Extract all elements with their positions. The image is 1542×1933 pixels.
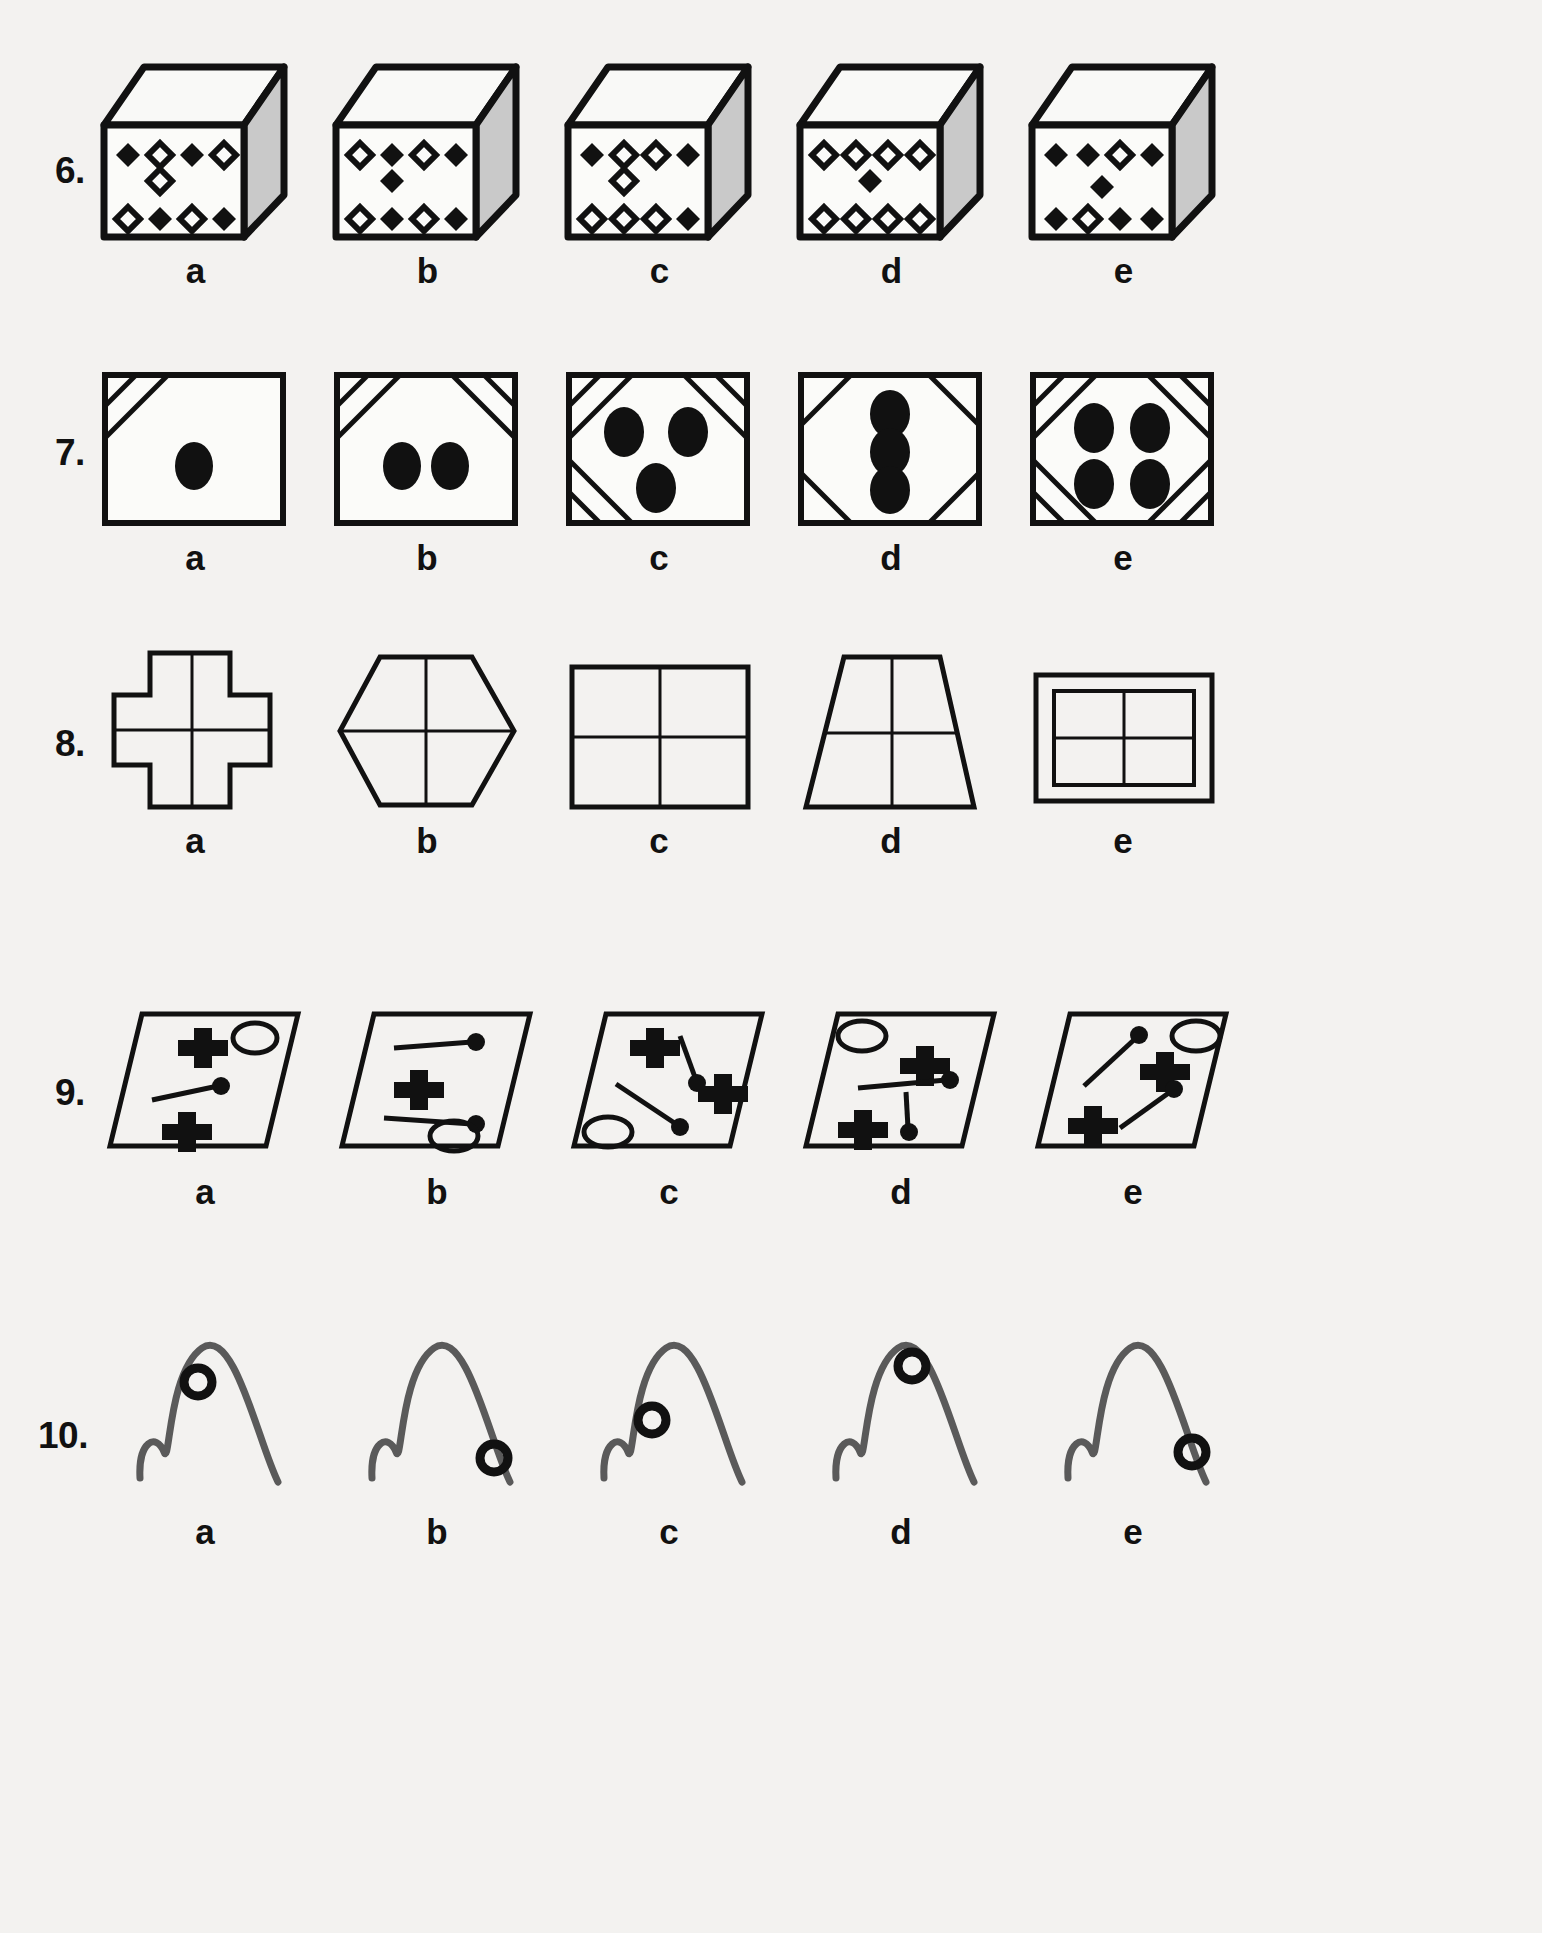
dot <box>383 442 421 490</box>
shape-figure-8d <box>796 645 986 830</box>
option-6d[interactable]: d <box>794 55 989 255</box>
option-label-10b: b <box>342 1512 532 1552</box>
option-6e[interactable]: e <box>1026 55 1221 255</box>
option-9c[interactable]: c <box>564 1000 774 1165</box>
option-10e[interactable]: e <box>1038 1330 1228 1510</box>
option-label-8e: e <box>1028 821 1218 861</box>
option-8d[interactable]: d <box>796 645 986 830</box>
option-10c[interactable]: c <box>574 1330 764 1510</box>
dot <box>1074 459 1114 509</box>
cross-icon <box>1140 1052 1190 1092</box>
option-7c[interactable]: c <box>564 370 754 540</box>
option-label-9b: b <box>332 1172 542 1212</box>
option-label-6d: d <box>794 251 989 291</box>
pin-line <box>616 1084 689 1136</box>
curve-figure-10b <box>342 1330 532 1510</box>
curve-figure-10d <box>806 1330 996 1510</box>
square-figure-7a <box>100 370 290 540</box>
shape-figure-8a <box>100 645 290 830</box>
option-9d[interactable]: d <box>796 1000 1006 1165</box>
option-8b[interactable]: b <box>332 645 522 830</box>
parallelogram-figure-9b <box>332 1000 542 1165</box>
option-label-8a: a <box>100 821 290 861</box>
option-label-10c: c <box>574 1512 764 1552</box>
curve-figure-10c <box>574 1330 764 1510</box>
option-label-8c: c <box>564 821 754 861</box>
option-label-9e: e <box>1028 1172 1238 1212</box>
option-6c[interactable]: c <box>562 55 757 255</box>
pin-line <box>900 1092 918 1141</box>
pin-line <box>394 1033 485 1051</box>
question-number-9: 9. <box>55 1072 85 1114</box>
oval-icon <box>1172 1021 1220 1051</box>
question-number-7: 7. <box>55 432 85 474</box>
shape-figure-8e <box>1028 645 1218 830</box>
worksheet-page: 6. a <box>0 0 1542 1933</box>
ring-icon <box>638 1406 666 1434</box>
dot <box>604 407 644 457</box>
option-label-8b: b <box>332 821 522 861</box>
dot <box>1074 403 1114 453</box>
pin-line <box>152 1077 230 1100</box>
square-figure-7c <box>564 370 754 540</box>
option-6a[interactable]: a <box>98 55 293 255</box>
parallelogram-figure-9e <box>1028 1000 1238 1165</box>
option-label-6a: a <box>98 251 293 291</box>
cross-icon <box>630 1028 680 1068</box>
option-10d[interactable]: d <box>806 1330 996 1510</box>
option-label-6e: e <box>1026 251 1221 291</box>
option-9a[interactable]: a <box>100 1000 310 1165</box>
question-number-6: 6. <box>55 150 85 192</box>
pin-line <box>1084 1026 1148 1086</box>
cube-figure-6d <box>794 55 989 255</box>
option-label-10e: e <box>1038 1512 1228 1552</box>
option-8c[interactable]: c <box>564 645 754 830</box>
dot <box>1130 403 1170 453</box>
cube-figure-6b <box>330 55 525 255</box>
parallelogram-figure-9a <box>100 1000 310 1165</box>
oval-icon <box>584 1117 632 1147</box>
option-label-9d: d <box>796 1172 1006 1212</box>
cube-figure-6a <box>98 55 293 255</box>
dot <box>175 442 213 490</box>
parallelogram-figure-9d <box>796 1000 1006 1165</box>
option-7a[interactable]: a <box>100 370 290 540</box>
option-7e[interactable]: e <box>1028 370 1218 540</box>
curve-figure-10e <box>1038 1330 1228 1510</box>
option-label-7c: c <box>564 538 754 578</box>
parallelogram-figure-9c <box>564 1000 774 1165</box>
curve-figure-10a <box>110 1330 300 1510</box>
option-7b[interactable]: b <box>332 370 522 540</box>
ring-icon <box>480 1444 508 1472</box>
option-9e[interactable]: e <box>1028 1000 1238 1165</box>
option-10a[interactable]: a <box>110 1330 300 1510</box>
question-number-8: 8. <box>55 723 85 765</box>
cross-icon <box>394 1070 444 1110</box>
square-figure-7d <box>796 370 986 540</box>
shape-figure-8b <box>332 645 522 830</box>
option-8a[interactable]: a <box>100 645 290 830</box>
option-label-6c: c <box>562 251 757 291</box>
oval-icon <box>838 1021 886 1051</box>
option-label-7d: d <box>796 538 986 578</box>
dot <box>1130 459 1170 509</box>
dot <box>870 466 910 514</box>
option-label-7e: e <box>1028 538 1218 578</box>
option-label-10d: d <box>806 1512 996 1552</box>
option-label-7a: a <box>100 538 290 578</box>
option-10b[interactable]: b <box>342 1330 532 1510</box>
pin-line <box>1120 1080 1183 1128</box>
pin-line <box>680 1036 706 1092</box>
option-8e[interactable]: e <box>1028 645 1218 830</box>
option-7d[interactable]: d <box>796 370 986 540</box>
option-6b[interactable]: b <box>330 55 525 255</box>
option-label-8d: d <box>796 821 986 861</box>
option-9b[interactable]: b <box>332 1000 542 1165</box>
square-figure-7e <box>1028 370 1218 540</box>
cube-figure-6e <box>1026 55 1221 255</box>
cross-icon <box>1068 1106 1118 1146</box>
dot <box>431 442 469 490</box>
ring-icon <box>184 1368 212 1396</box>
oval-icon <box>233 1023 277 1053</box>
question-number-10: 10. <box>38 1415 88 1457</box>
